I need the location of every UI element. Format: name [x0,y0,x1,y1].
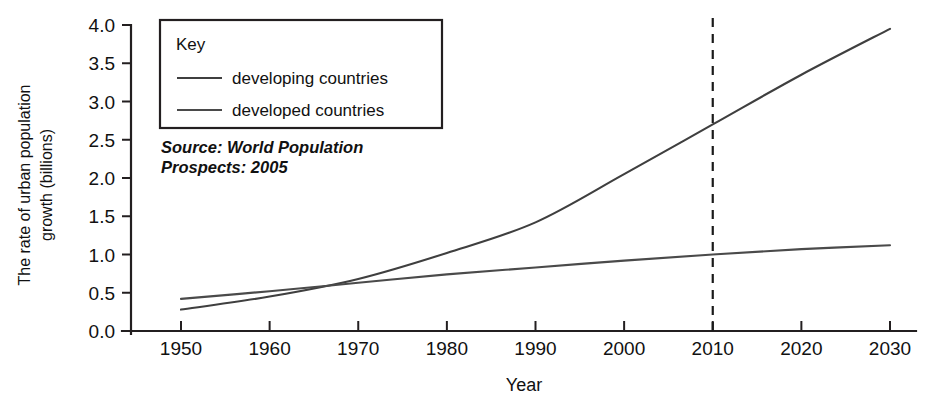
x-tick-label: 2030 [869,338,911,359]
x-tick-label: 1950 [160,338,202,359]
source-note-line-1: Source: World Population [161,138,363,156]
source-note: Source: World Population Prospects: 2005 [161,138,363,176]
y-tick-label: 1.5 [89,206,115,227]
x-tick-label: 2000 [603,338,645,359]
legend: Key developing countries developed count… [160,20,442,128]
y-axis-title-line-1: The rate of urban population [16,84,33,285]
y-tick-label: 2.0 [89,168,115,189]
y-tick-label: 2.5 [89,130,115,151]
y-tick-label: 4.0 [89,15,115,36]
x-tick-label: 2010 [692,338,734,359]
source-note-line-2: Prospects: 2005 [161,158,288,176]
legend-label-developed-countries: developed countries [232,101,384,120]
x-tick-label: 1960 [248,338,290,359]
series-line-developed-countries [181,245,890,299]
legend-label-developing-countries: developing countries [232,69,388,88]
y-axis-ticks: 0.00.51.01.52.02.53.03.54.0 [89,15,131,342]
x-axis-ticks: 195019601970198019902000201020202030 [160,321,911,359]
x-axis-title: Year [506,375,542,395]
x-tick-label: 1980 [426,338,468,359]
line-chart-canvas: The rate of urban population growth (bil… [0,0,936,407]
y-tick-label: 0.5 [89,283,115,304]
legend-title: Key [176,35,206,54]
y-tick-label: 3.0 [89,92,115,113]
x-tick-label: 2020 [780,338,822,359]
y-tick-label: 0.0 [89,321,115,342]
y-tick-label: 3.5 [89,53,115,74]
x-tick-label: 1970 [337,338,379,359]
y-axis-title: The rate of urban population growth (bil… [16,84,55,285]
y-tick-label: 1.0 [89,245,115,266]
chart-figure: The rate of urban population growth (bil… [0,0,936,407]
x-tick-label: 1990 [514,338,556,359]
y-axis-title-line-2: growth (billions) [38,129,55,241]
